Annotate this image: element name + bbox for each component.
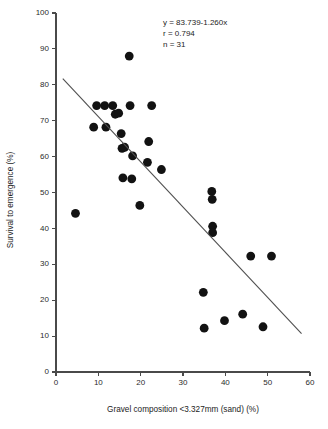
data-point	[267, 252, 276, 261]
data-point	[238, 310, 247, 319]
regression-equation-text: y = 83.739-1.260x	[163, 18, 227, 27]
x-tick-label: 40	[221, 378, 230, 387]
data-point	[117, 129, 126, 138]
y-tick-label: 60	[40, 152, 49, 161]
y-tick-label: 0	[45, 367, 50, 376]
scatter-plot-figure: 0102030405060708090100 0102030405060 y =…	[0, 0, 328, 429]
correlation-text: r = 0.794	[163, 29, 195, 38]
data-point	[135, 201, 144, 210]
plot-canvas: 0102030405060708090100 0102030405060 y =…	[0, 0, 328, 429]
x-tick-label: 10	[94, 378, 103, 387]
data-point	[108, 101, 117, 110]
y-tick-label: 20	[40, 295, 49, 304]
data-point	[144, 137, 153, 146]
data-point	[100, 101, 109, 110]
y-axis-title: Survival to emergence (%)	[6, 151, 15, 248]
x-tick-label: 20	[136, 378, 145, 387]
y-tick-label: 70	[40, 116, 49, 125]
data-point	[208, 195, 217, 204]
y-tick-label: 50	[40, 188, 49, 197]
x-axis-title: Gravel composition <3.327mm (sand) (%)	[107, 405, 259, 414]
x-axis-ticks: 0102030405060	[54, 372, 315, 387]
y-tick-label: 90	[40, 44, 49, 53]
x-tick-label: 30	[179, 378, 188, 387]
sample-size-text: n = 31	[163, 40, 186, 49]
data-point	[157, 165, 166, 174]
axes	[56, 13, 310, 372]
data-point	[147, 101, 156, 110]
x-tick-label: 60	[306, 378, 315, 387]
data-points	[71, 52, 276, 333]
data-point	[126, 101, 135, 110]
regression-line	[63, 79, 302, 334]
x-tick-label: 0	[54, 378, 59, 387]
data-point	[207, 187, 216, 196]
data-point	[118, 173, 127, 182]
data-point	[71, 209, 80, 218]
y-tick-label: 10	[40, 331, 49, 340]
data-point	[92, 101, 101, 110]
data-point	[199, 288, 208, 297]
data-point	[127, 174, 136, 183]
annotation-block: y = 83.739-1.260x r = 0.794 n = 31	[163, 18, 227, 49]
y-tick-label: 30	[40, 259, 49, 268]
y-tick-label: 100	[36, 8, 50, 17]
data-point	[220, 316, 229, 325]
data-point	[200, 324, 209, 333]
data-point	[89, 123, 98, 132]
data-point	[259, 322, 268, 331]
data-point	[114, 109, 123, 118]
y-axis-ticks: 0102030405060708090100	[36, 8, 56, 376]
data-point	[125, 52, 134, 61]
y-tick-label: 40	[40, 224, 49, 233]
x-tick-label: 50	[263, 378, 272, 387]
data-point	[246, 252, 255, 261]
y-tick-label: 80	[40, 80, 49, 89]
